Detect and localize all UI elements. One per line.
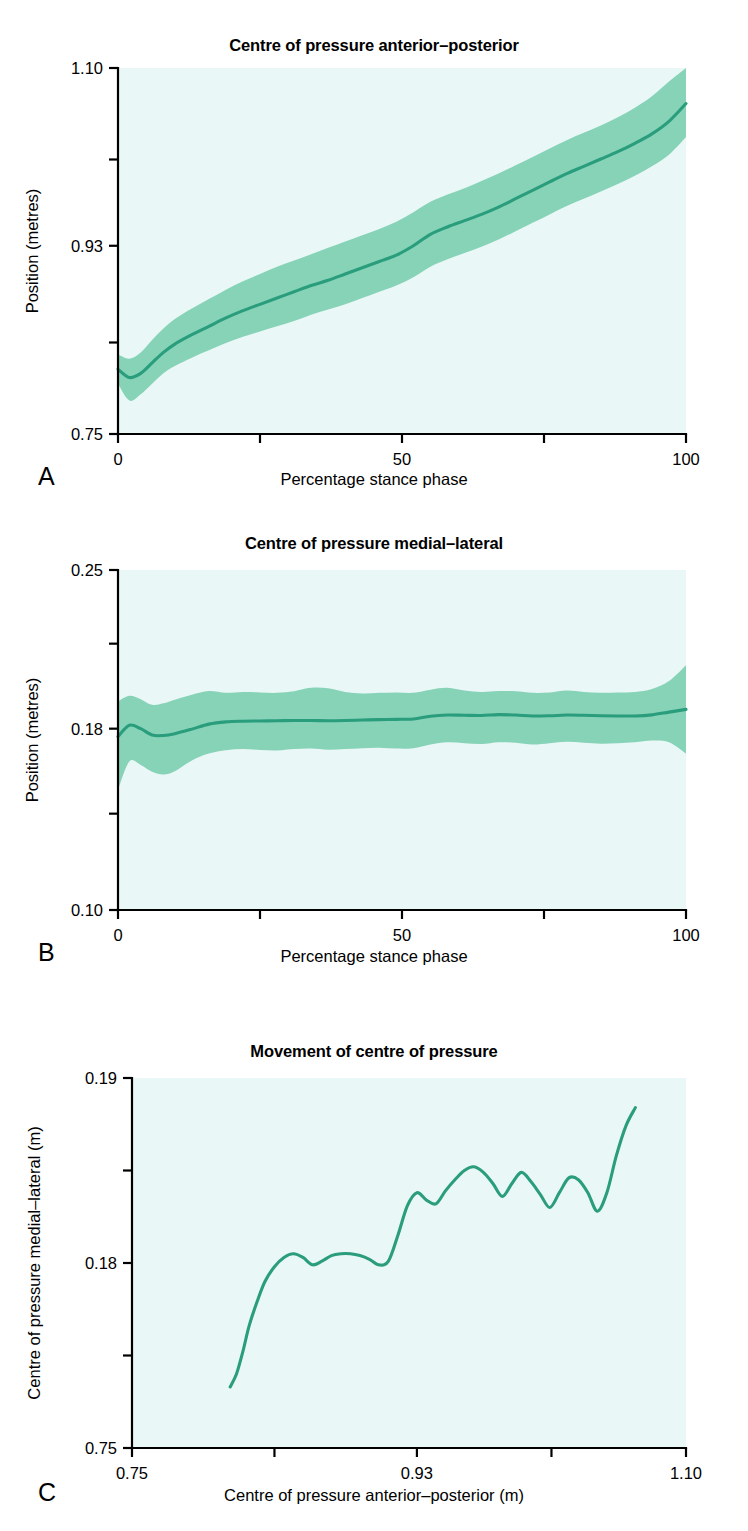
panel-c: Movement of centre of pressure 0.750.180… (0, 1020, 748, 1531)
y-tick-label: 0.93 (71, 237, 103, 255)
x-tick-label: 50 (393, 926, 411, 944)
y-axis-label: Centre of pressure medial–lateral (m) (25, 1126, 43, 1399)
x-tick-label: 100 (672, 450, 700, 468)
plot-background (132, 1078, 686, 1448)
x-tick-label: 1.10 (670, 1464, 702, 1482)
panel-b-letter: B (38, 938, 55, 967)
y-tick-label: 0.75 (85, 1439, 117, 1457)
x-tick-label: 100 (672, 926, 700, 944)
panel-b-xlabel: Percentage stance phase (0, 947, 748, 966)
y-axis-label: Position (metres) (23, 189, 41, 314)
y-tick-label: 1.10 (71, 59, 103, 77)
y-tick-label: 0.18 (71, 720, 103, 738)
panel-a-xlabel: Percentage stance phase (0, 470, 748, 489)
y-tick-label: 0.75 (71, 425, 103, 443)
y-tick-label: 0.10 (71, 901, 103, 919)
x-tick-label: 0 (113, 926, 122, 944)
panel-c-plot: 0.750.180.190.750.931.10Centre of pressu… (0, 1020, 748, 1531)
panel-a: Centre of pressure anterior–posterior 0.… (0, 0, 748, 510)
x-tick-label: 0.75 (116, 1464, 148, 1482)
x-tick-label: 0.93 (401, 1464, 433, 1482)
panel-c-letter: C (38, 1478, 56, 1507)
panel-b-plot: 0.100.180.25050100Position (metres) (0, 510, 748, 1020)
panel-a-plot: 0.750.931.10050100Position (metres) (0, 0, 748, 510)
y-tick-label: 0.18 (85, 1254, 117, 1272)
panel-b: Centre of pressure medial–lateral 0.100.… (0, 510, 748, 1020)
panel-a-letter: A (38, 462, 55, 491)
x-tick-label: 50 (393, 450, 411, 468)
y-tick-label: 0.25 (71, 561, 103, 579)
panel-c-xlabel: Centre of pressure anterior–posterior (m… (0, 1486, 748, 1505)
y-tick-label: 0.19 (85, 1069, 117, 1087)
x-tick-label: 0 (113, 450, 122, 468)
y-axis-label: Position (metres) (23, 678, 41, 803)
